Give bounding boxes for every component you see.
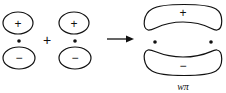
plus-operator: + [43,32,51,48]
pi-nucleus-dot-right [209,40,213,44]
pi-orbital-diagram: + − + + − + − wπ [0,0,226,93]
p-orbital-2: + − [59,12,91,69]
pi-nucleus-dot-left [153,40,157,44]
orbital-1-nucleus-dot [17,39,21,43]
orbital-2-plus-sign: + [70,17,77,31]
orbital-1-plus-sign: + [14,17,21,31]
reaction-arrow-icon [107,36,134,43]
p-orbital-1: + − [3,12,35,69]
pi-label: wπ [177,81,190,92]
pi-plus-sign: + [179,6,186,20]
pi-minus-sign: − [179,59,186,73]
pi-orbital: + − [144,5,222,76]
orbital-2-minus-sign: − [71,51,78,65]
orbital-2-nucleus-dot [73,39,77,43]
orbital-1-minus-sign: − [15,51,22,65]
